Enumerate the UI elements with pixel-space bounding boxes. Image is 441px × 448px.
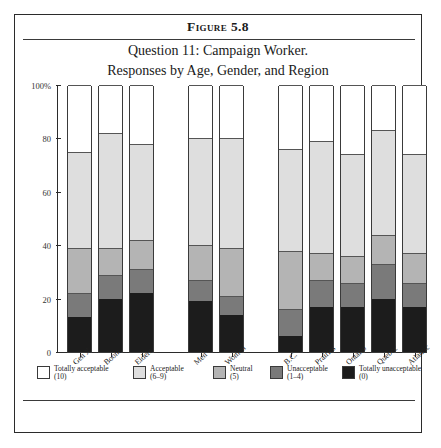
y-tick-label-60: 60 [13,188,51,198]
bar-segment-totally_acceptable [341,85,364,154]
y-tick-80 [56,138,61,139]
bar-segment-unacceptable [372,264,395,299]
bar-segment-totally_acceptable [99,85,122,133]
bar-segment-unacceptable [341,283,364,307]
bar-segment-acceptable [130,144,153,240]
bar-segment-totally_acceptable [68,85,91,152]
y-tick-40 [56,245,61,246]
legend-swatch-icon [133,366,146,379]
bar-segment-unacceptable [130,269,153,293]
bar-segment-totally_acceptable [130,85,153,144]
bar-segment-totally_unacceptable [130,293,153,352]
figure-subtitle-line1: Question 11: Campaign Worker. [15,43,421,59]
bar-segment-totally_acceptable [220,85,243,138]
y-tick-0 [56,352,61,353]
y-tick-label-100: 100% [13,81,51,91]
bar-men[interactable] [188,86,213,353]
bar-segment-neutral [279,251,302,310]
legend-swatch-icon [342,366,355,379]
bar-segment-totally_acceptable [279,85,302,149]
figure-container: Figure 5.8 Question 11: Campaign Worker.… [14,14,422,433]
y-tick-label-20: 20 [13,295,51,305]
figure-subtitle-line2: Responses by Age, Gender, and Region [15,63,421,79]
legend-sublabel: (6–9) [150,372,166,381]
bar-segment-acceptable [341,154,364,255]
y-tick-label-0: 0 [13,348,51,358]
bar-segment-acceptable [68,152,91,248]
bar-segment-totally_acceptable [189,85,212,138]
bar-segment-neutral [130,240,153,269]
bar-b-c[interactable] [278,86,303,353]
bar-segment-unacceptable [403,283,426,307]
bar-segment-totally_unacceptable [99,299,122,352]
bar-segment-acceptable [372,130,395,234]
bar-segment-unacceptable [279,309,302,336]
bar-gen-x[interactable] [67,86,92,353]
bar-quebec[interactable] [371,86,396,353]
bar-segment-neutral [310,253,333,280]
bar-segment-neutral [68,248,91,293]
figure-label: Figure 5.8 [15,19,421,35]
bar-segment-neutral [220,248,243,296]
bar-segment-neutral [372,235,395,264]
legend-divider [23,400,415,401]
bar-atlantic[interactable] [402,86,427,353]
legend-swatch-icon [37,366,50,379]
bar-segment-unacceptable [310,280,333,307]
bar-segment-neutral [403,253,426,282]
bar-segment-totally_unacceptable [189,301,212,352]
bar-segment-acceptable [279,149,302,250]
bar-segment-unacceptable [99,275,122,299]
chart-legend: Totally acceptable(10)Acceptable(6–9)Neu… [37,365,405,395]
bar-segment-totally_acceptable [372,85,395,130]
bar-boom[interactable] [98,86,123,353]
bar-segment-totally_unacceptable [279,336,302,352]
bar-segment-neutral [99,248,122,275]
legend-sublabel: (10) [54,372,67,381]
bar-segment-unacceptable [189,280,212,301]
chart-plot-area: 020406080100% Gen XBoomEldersMenWomenB.C… [57,86,407,353]
bar-segment-unacceptable [220,296,243,315]
bar-segment-acceptable [99,133,122,248]
bar-segment-neutral [189,245,212,280]
y-tick-100 [56,85,61,86]
bar-segment-unacceptable [68,293,91,317]
bar-ontario[interactable] [340,86,365,353]
y-tick-label-40: 40 [13,241,51,251]
y-tick-20 [56,299,61,300]
legend-sublabel: (0) [359,372,368,381]
bar-segment-totally_acceptable [310,85,333,141]
legend-label: Totally unacceptable [359,364,421,373]
bar-segment-neutral [341,256,364,283]
bar-segment-acceptable [403,154,426,253]
legend-sublabel: (1–4) [287,372,303,381]
bar-prairies[interactable] [309,86,334,353]
bar-segment-acceptable [310,141,333,253]
legend-sublabel: (5) [230,372,239,381]
y-tick-label-80: 80 [13,134,51,144]
y-tick-60 [56,192,61,193]
legend-swatch-icon [270,366,283,379]
bar-segment-totally_acceptable [403,85,426,154]
title-divider [23,39,415,40]
bar-elders[interactable] [129,86,154,353]
legend-swatch-icon [213,366,226,379]
bar-women[interactable] [219,86,244,353]
bar-segment-acceptable [220,138,243,247]
y-axis [57,86,58,353]
bar-segment-acceptable [189,138,212,245]
